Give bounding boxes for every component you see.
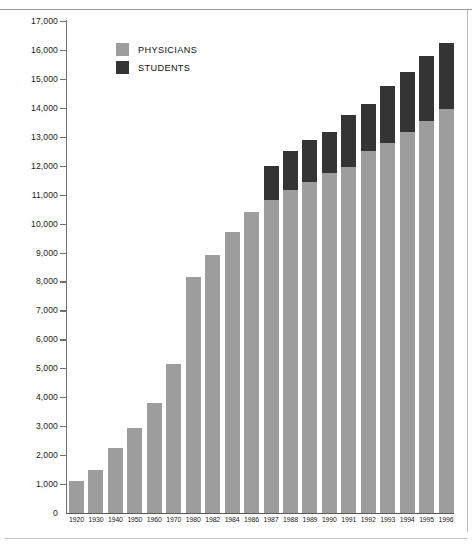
x-axis-labels: 1920193019401950196019701980198219841986… (66, 516, 458, 536)
y-axis-tick-label: 17,000 (6, 16, 58, 26)
chart-page: 01,0002,0003,0004,0005,0006,0007,0008,00… (0, 0, 472, 547)
bar-segment-physicians (166, 364, 181, 513)
y-axis-tick-label: 9,000 (6, 248, 58, 258)
y-axis-tick-label: 10,000 (6, 219, 58, 229)
bar-1960 (147, 403, 162, 513)
legend-swatch-students (116, 61, 129, 74)
bar-1996 (439, 43, 454, 513)
legend-item-students: STUDENTS (116, 60, 197, 75)
bar-1970 (166, 364, 181, 513)
y-axis-tick-label: 6,000 (6, 334, 58, 344)
bar-1980 (186, 277, 201, 513)
bar-1991 (341, 115, 356, 513)
bar-1995 (419, 56, 434, 513)
y-axis-tick-label: 5,000 (6, 363, 58, 373)
bar-1989 (302, 140, 317, 513)
bar-segment-physicians (302, 182, 317, 513)
y-axis-tick-label: 16,000 (6, 45, 58, 55)
y-axis-tick-label: 2,000 (6, 450, 58, 460)
legend-item-physicians: PHYSICIANS (116, 42, 197, 57)
bar-1992 (361, 104, 376, 514)
bar-segment-students (400, 72, 415, 133)
bar-1987 (264, 166, 279, 513)
bar-1986 (244, 212, 259, 513)
bar-1993 (380, 86, 395, 513)
bar-segment-physicians (147, 403, 162, 513)
y-axis-tick-label: 0 (6, 508, 58, 518)
stacked-bar-chart: 01,0002,0003,0004,0005,0006,0007,0008,00… (0, 0, 472, 547)
y-axis-tick-label: 8,000 (6, 276, 58, 286)
bar-segment-physicians (205, 255, 220, 513)
bar-segment-physicians (108, 448, 123, 513)
bar-segment-students (341, 115, 356, 167)
y-axis-tick-label: 7,000 (6, 305, 58, 315)
bar-segment-physicians (400, 132, 415, 513)
bar-segment-physicians (88, 470, 103, 513)
bar-1930 (88, 470, 103, 513)
y-axis-tick-label: 1,000 (6, 479, 58, 489)
bar-1990 (322, 132, 337, 513)
bar-1940 (108, 448, 123, 513)
bar-segment-students (283, 151, 298, 190)
bar-segment-students (302, 140, 317, 182)
bar-segment-physicians (186, 277, 201, 513)
bar-segment-physicians (419, 121, 434, 513)
bar-segment-physicians (225, 232, 240, 513)
bar-segment-physicians (439, 109, 454, 513)
y-axis-tick-label: 14,000 (6, 103, 58, 113)
bar-segment-students (380, 86, 395, 142)
bar-segment-physicians (264, 200, 279, 513)
bar-segment-physicians (244, 212, 259, 513)
bar-1994 (400, 72, 415, 513)
bar-segment-physicians (283, 190, 298, 513)
bar-segment-students (322, 132, 337, 173)
y-axis-tick-label: 15,000 (6, 74, 58, 84)
y-axis-tick-label: 11,000 (6, 190, 58, 200)
bar-segment-students (439, 43, 454, 110)
bar-series-group (66, 0, 454, 547)
y-axis-tick-label: 4,000 (6, 392, 58, 402)
chart-legend: PHYSICIANS STUDENTS (116, 42, 197, 78)
y-axis-labels: 01,0002,0003,0004,0005,0006,0007,0008,00… (0, 0, 58, 547)
bar-segment-physicians (380, 143, 395, 513)
y-axis-tick-label: 12,000 (6, 161, 58, 171)
bar-1984 (225, 232, 240, 513)
bar-segment-physicians (69, 481, 84, 513)
bar-segment-students (419, 56, 434, 121)
legend-label-students: STUDENTS (138, 63, 190, 73)
bar-segment-students (264, 166, 279, 201)
bar-1982 (205, 255, 220, 513)
legend-swatch-physicians (116, 43, 129, 56)
bar-segment-students (361, 104, 376, 152)
legend-label-physicians: PHYSICIANS (138, 45, 197, 55)
bar-1920 (69, 481, 84, 513)
bar-segment-physicians (127, 428, 142, 513)
y-axis-tick-label: 13,000 (6, 132, 58, 142)
bar-segment-physicians (322, 173, 337, 513)
bar-segment-physicians (361, 151, 376, 513)
bar-1988 (283, 151, 298, 513)
y-axis-tick-label: 3,000 (6, 421, 58, 431)
x-axis-tick-label: 1996 (434, 516, 458, 523)
bar-1950 (127, 428, 142, 513)
bar-segment-physicians (341, 167, 356, 513)
